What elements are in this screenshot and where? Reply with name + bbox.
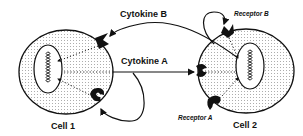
receptor-b-label: Receptor B [234, 10, 269, 18]
cell-2 [196, 24, 294, 113]
cytokine-b-label: Cytokine B [120, 9, 168, 19]
cytokine-signaling-diagram: Cytokine B Cytokine A Receptor B Recepto… [0, 0, 303, 136]
cytokine-a-label: Cytokine A [121, 56, 168, 66]
cell-2-label: Cell 2 [233, 120, 257, 130]
receptor-a-label: Receptor A [178, 114, 213, 122]
cell-1 [19, 30, 113, 114]
cell-1-label: Cell 1 [51, 121, 75, 131]
cell-2-nucleus [236, 43, 264, 89]
